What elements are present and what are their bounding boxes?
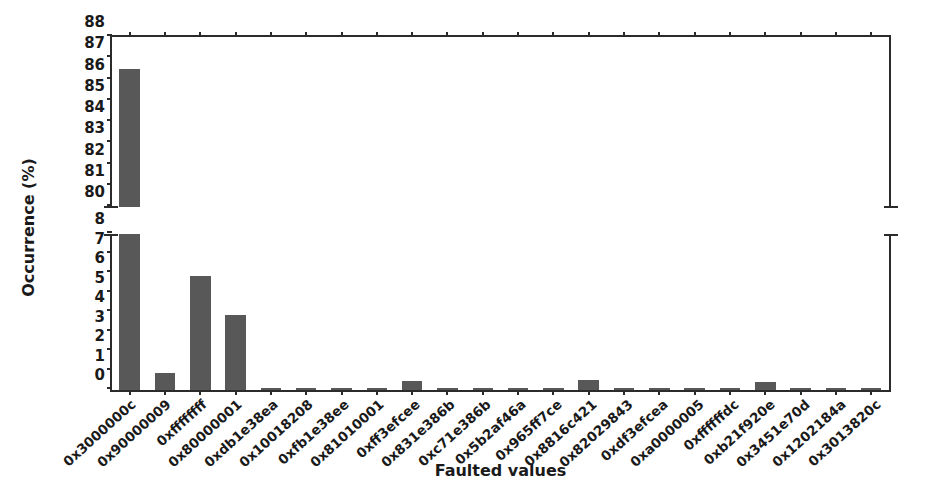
bar-segment xyxy=(225,315,245,390)
bar-lower xyxy=(748,234,783,390)
axis-break-left-upper xyxy=(104,206,118,208)
bar-lower xyxy=(183,234,218,390)
bar-upper xyxy=(112,37,147,207)
bar-upper xyxy=(395,37,430,207)
bar-lower xyxy=(571,234,606,390)
y-tick-label: 87 xyxy=(84,36,105,51)
y-tick-label: 83 xyxy=(84,121,105,136)
bar-upper xyxy=(536,37,571,207)
bar-lower xyxy=(536,234,571,390)
y-tick-mark xyxy=(107,329,112,331)
y-tick-mark xyxy=(107,55,112,57)
upper-plot-panel: 808182838485868788 xyxy=(110,35,891,207)
y-tick-mark xyxy=(107,34,112,36)
bar-lower xyxy=(642,234,677,390)
lower-plot-panel: 012345678 xyxy=(110,234,891,392)
bar-lower xyxy=(324,234,359,390)
y-tick-label: 1 xyxy=(95,348,105,363)
bar-upper xyxy=(571,37,606,207)
y-tick-mark xyxy=(107,183,112,185)
bar-lower xyxy=(430,234,465,390)
y-tick-mark xyxy=(107,251,112,253)
bar-segment xyxy=(155,373,175,390)
bar-upper xyxy=(783,37,818,207)
y-tick-mark xyxy=(107,119,112,121)
y-tick-label: 0 xyxy=(95,368,105,383)
y-tick-label: 86 xyxy=(84,57,105,72)
y-tick-label: 4 xyxy=(95,290,105,305)
bar-upper xyxy=(430,37,465,207)
y-tick-label: 5 xyxy=(95,270,105,285)
bar-upper xyxy=(324,37,359,207)
bar-lower xyxy=(359,234,394,390)
bar-lower xyxy=(218,234,253,390)
bar-lower xyxy=(606,234,641,390)
y-tick-mark xyxy=(107,270,112,272)
bar-upper xyxy=(218,37,253,207)
y-tick-mark xyxy=(107,348,112,350)
upper-bars xyxy=(112,37,889,207)
axis-break-right-lower xyxy=(884,234,898,236)
bar-segment xyxy=(119,234,139,390)
bar-lower xyxy=(818,234,853,390)
bar-upper xyxy=(677,37,712,207)
bar-upper xyxy=(465,37,500,207)
y-tick-label: 8 xyxy=(95,212,105,227)
bar-lower xyxy=(854,234,889,390)
y-tick-mark xyxy=(107,231,112,233)
bar-lower xyxy=(289,234,324,390)
bar-upper xyxy=(147,37,182,207)
upper-plot-area: 808182838485868788 xyxy=(112,37,889,207)
y-tick-label: 84 xyxy=(84,100,105,115)
lower-bars xyxy=(112,234,889,390)
x-axis-label: Faulted values xyxy=(110,461,891,480)
y-tick-label: 2 xyxy=(95,329,105,344)
bar-segment xyxy=(578,380,598,390)
bar-lower xyxy=(500,234,535,390)
x-tick-labels: 0x3000000c0x900000090xffffffff0x80000001… xyxy=(110,392,891,462)
y-tick-mark xyxy=(107,77,112,79)
y-tick-label: 85 xyxy=(84,78,105,93)
bar-upper xyxy=(854,37,889,207)
lower-plot-area: 012345678 xyxy=(112,234,889,390)
bar-lower xyxy=(395,234,430,390)
bar-upper xyxy=(500,37,535,207)
y-tick-label: 6 xyxy=(95,251,105,266)
bar-lower xyxy=(147,234,182,390)
bar-lower xyxy=(253,234,288,390)
bar-upper xyxy=(183,37,218,207)
bar-upper xyxy=(748,37,783,207)
y-tick-mark xyxy=(107,98,112,100)
bar-upper xyxy=(712,37,747,207)
y-tick-label: 88 xyxy=(84,15,105,30)
bar-upper xyxy=(606,37,641,207)
axis-break-left-lower xyxy=(104,234,118,236)
bar-lower xyxy=(465,234,500,390)
bar-segment xyxy=(190,276,210,390)
bar-segment xyxy=(402,381,422,390)
bar-lower xyxy=(712,234,747,390)
x-tick-label-cell: 0x3013820c xyxy=(856,392,892,462)
bar-lower xyxy=(112,234,147,390)
bar-segment xyxy=(119,69,139,207)
bar-lower xyxy=(783,234,818,390)
bar-chart-figure: Occurrence (%) 808182838485868788 012345… xyxy=(0,0,934,503)
y-tick-mark xyxy=(107,290,112,292)
y-tick-label: 3 xyxy=(95,309,105,324)
y-axis-label: Occurrence (%) xyxy=(19,128,38,328)
bar-upper xyxy=(253,37,288,207)
axis-break-right-upper xyxy=(884,206,898,208)
y-tick-mark xyxy=(107,140,112,142)
y-tick-label: 82 xyxy=(84,142,105,157)
y-tick-mark xyxy=(107,309,112,311)
bar-upper xyxy=(818,37,853,207)
bar-upper xyxy=(642,37,677,207)
y-tick-label: 80 xyxy=(84,185,105,200)
y-tick-label: 81 xyxy=(84,163,105,178)
bar-upper xyxy=(359,37,394,207)
y-tick-mark xyxy=(107,387,112,389)
bar-segment xyxy=(755,382,775,390)
y-tick-mark xyxy=(107,368,112,370)
bar-lower xyxy=(677,234,712,390)
bar-upper xyxy=(289,37,324,207)
